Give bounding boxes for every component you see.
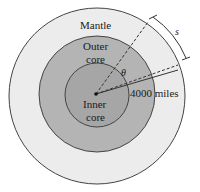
outer-core-label-line2: core [86, 53, 105, 65]
inner-core-label-line2: core [86, 111, 105, 123]
outer-core-label-line1: Outer [83, 40, 108, 52]
theta-label: θ [121, 67, 126, 78]
earth-diagram: Mantle Outer core Inner core θ 4000 mile… [0, 0, 200, 192]
center-dot [94, 92, 98, 96]
inner-core-label-line1: Inner [83, 98, 107, 110]
mantle-label: Mantle [80, 19, 111, 31]
arc-label: s [175, 26, 179, 37]
radius-label: 4000 miles [130, 87, 179, 99]
arc-tick-top [149, 15, 157, 19]
